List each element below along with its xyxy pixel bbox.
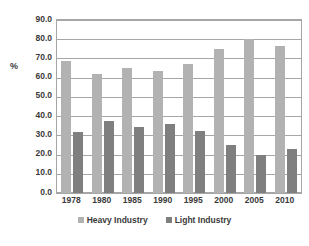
y-axis-tick-label: 30.0 bbox=[18, 130, 52, 139]
bar-light-industry-1990 bbox=[165, 124, 175, 193]
bar-group bbox=[271, 20, 302, 193]
light-industry-swatch-icon bbox=[166, 217, 172, 223]
x-axis-tick-label: 2000 bbox=[209, 195, 240, 206]
bar-heavy-industry-1985 bbox=[122, 68, 132, 193]
legend-label: Heavy Industry bbox=[87, 215, 148, 225]
bar-group bbox=[240, 20, 271, 193]
bar-group bbox=[57, 20, 88, 193]
x-axis-tick-label: 2005 bbox=[239, 195, 270, 206]
plot-area bbox=[56, 19, 302, 194]
bar-heavy-industry-2000 bbox=[214, 49, 224, 193]
legend-label: Light Industry bbox=[175, 215, 232, 225]
x-axis-tick-label: 1995 bbox=[178, 195, 209, 206]
bar-light-industry-1980 bbox=[104, 121, 114, 193]
bar-light-industry-1985 bbox=[134, 127, 144, 193]
y-axis-tick-labels: 90.080.070.060.050.040.030.020.010.00.0 bbox=[18, 12, 54, 198]
bar-heavy-industry-2010 bbox=[275, 46, 285, 193]
y-axis-tick-label: 90.0 bbox=[18, 15, 52, 24]
bar-heavy-industry-1978 bbox=[61, 61, 71, 193]
y-axis-tick-label: 50.0 bbox=[18, 91, 52, 100]
y-axis-tick-label: 70.0 bbox=[18, 53, 52, 62]
bar-group bbox=[88, 20, 119, 193]
y-axis-tick-label: 10.0 bbox=[18, 168, 52, 177]
bar-group bbox=[210, 20, 241, 193]
bar-light-industry-2005 bbox=[256, 155, 266, 193]
bar-heavy-industry-1980 bbox=[92, 74, 102, 193]
bar-heavy-industry-2005 bbox=[244, 39, 254, 193]
x-axis-tick-label: 1985 bbox=[117, 195, 148, 206]
bar-group bbox=[118, 20, 149, 193]
x-axis-tick-label: 1978 bbox=[56, 195, 87, 206]
x-axis-tick-label: 1980 bbox=[87, 195, 118, 206]
y-axis-tick-label: 60.0 bbox=[18, 72, 52, 81]
bar-heavy-industry-1995 bbox=[183, 64, 193, 193]
y-axis-tick-label: 0.0 bbox=[18, 188, 52, 197]
x-axis-tick-label: 1990 bbox=[148, 195, 179, 206]
bar-group bbox=[179, 20, 210, 193]
bars-layer bbox=[57, 20, 301, 193]
bar-light-industry-1978 bbox=[73, 132, 83, 193]
bar-light-industry-2000 bbox=[226, 145, 236, 193]
bar-light-industry-2010 bbox=[287, 149, 297, 193]
bar-group bbox=[149, 20, 180, 193]
bar-light-industry-1995 bbox=[195, 131, 205, 193]
y-axis-tick-label: 40.0 bbox=[18, 111, 52, 120]
y-axis-tick-label: 80.0 bbox=[18, 34, 52, 43]
y-axis-tick-label: 20.0 bbox=[18, 149, 52, 158]
chart-legend: Heavy IndustryLight Industry bbox=[0, 215, 309, 225]
x-axis-tick-labels: 19781980198519901995200020052010 bbox=[56, 195, 300, 209]
legend-item-heavy-industry[interactable]: Heavy Industry bbox=[78, 215, 148, 225]
bar-chart: % 90.080.070.060.050.040.030.020.010.00.… bbox=[0, 0, 309, 246]
legend-item-light-industry[interactable]: Light Industry bbox=[166, 215, 232, 225]
heavy-industry-swatch-icon bbox=[78, 217, 84, 223]
bar-heavy-industry-1990 bbox=[153, 71, 163, 193]
x-axis-tick-label: 2010 bbox=[270, 195, 301, 206]
